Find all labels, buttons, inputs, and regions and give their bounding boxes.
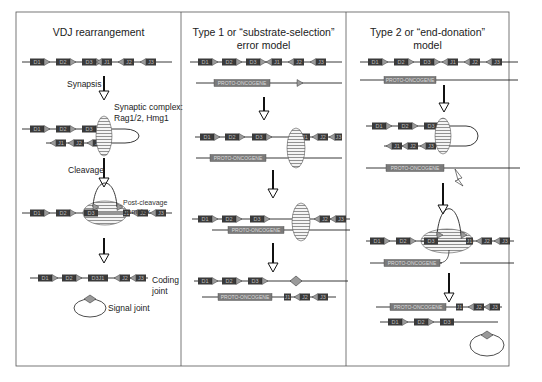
svg-text:J1: J1 [58,140,64,146]
gene-segment-J1: J1 [96,59,112,66]
gene-segment-J3: J3 [420,143,436,150]
svg-text:D2: D2 [417,319,424,325]
gene-segment-J2: J2 [68,140,84,147]
svg-text:PROTO-ONCOGENE: PROTO-ONCOGENE [221,294,270,300]
svg-text:J3: J3 [502,238,508,244]
gene-segment-J3: J3 [330,216,346,223]
svg-text:J3: J3 [138,275,144,281]
proto-oncogene: PROTO-ONCOGENE [390,304,446,311]
post-cleavage-label: Post-cleavage [123,199,167,207]
svg-text:D2: D2 [399,238,406,244]
gene-segment-D1: D1 [30,59,50,66]
gene-segment-J1: J1 [442,59,458,66]
svg-text:J1: J1 [450,59,456,65]
svg-text:D3J1: D3J1 [92,275,105,281]
svg-text:D2: D2 [59,210,66,216]
svg-text:J2: J2 [302,294,308,300]
process-arrow [99,238,109,263]
panel-title-type1: Type 1 or “substrate-selection” [181,26,346,39]
svg-text:D3: D3 [85,126,92,132]
gene-segment-D2: D2 [414,319,434,326]
svg-text:J1: J1 [457,304,463,310]
svg-text:D3: D3 [427,238,434,244]
svg-text:D1: D1 [201,278,208,284]
svg-text:D1: D1 [201,216,208,222]
gene-segment-J3: J3 [130,275,146,282]
synaptic-complex [287,128,305,168]
gene-segment-D2: D2 [222,216,242,223]
svg-text:PROTO-ONCOGENE: PROTO-ONCOGENE [391,165,440,171]
gene-segment-D2: D2 [222,278,242,285]
signal-joint-label: Signal joint [108,303,150,313]
gene-segment-J3: J3 [310,59,326,66]
gene-segment-D1: D1 [38,275,58,282]
coding-joint-label-2: joint [152,286,168,296]
svg-text:J3: J3 [338,216,344,222]
svg-text:D1: D1 [203,134,210,140]
gene-segment-J2: J2 [402,143,418,150]
svg-text:D3: D3 [87,210,94,216]
svg-text:D1: D1 [33,210,40,216]
post-cleavage-label-2: complex [124,208,150,216]
coding-joint-label: Coding [152,275,179,285]
svg-text:J1: J1 [394,143,400,149]
gene-segment-J2: J2 [118,59,134,66]
svg-text:D2: D2 [225,59,232,65]
svg-text:PROTO-ONCOGENE: PROTO-ONCOGENE [386,77,435,83]
rearrangement-diagram: D1D2D3J1J2J3D1D2D3J1J2J3D1D2D3J1J2J3D1D2… [0,0,542,382]
svg-text:D3: D3 [253,216,260,222]
svg-text:J2: J2 [322,216,328,222]
svg-text:J2: J2 [296,59,302,65]
gene-segment-J2: J2 [314,216,330,223]
gene-segment-D2: D2 [394,59,414,66]
gene-segment-D1: D1 [198,59,218,66]
gene-segment-J2: J2 [464,59,480,66]
svg-text:J3: J3 [318,59,324,65]
panel-title-type2: Type 2 or “end-donation” [346,26,509,39]
gene-segment-J2: J2 [288,59,304,66]
svg-text:D1: D1 [371,59,378,65]
gene-segment-D3: D3 [84,210,98,217]
gene-segment-D2: D2 [396,238,416,245]
cleavage-label: Cleavage [68,165,104,175]
gene-segment-D3: D3 [420,59,440,66]
svg-text:D2: D2 [225,216,232,222]
svg-text:J1: J1 [285,294,291,300]
svg-text:D1: D1 [41,275,48,281]
process-arrow [439,85,449,112]
svg-text:D1: D1 [391,319,398,325]
gene-segment-J2: J2 [294,294,310,301]
svg-text:J2: J2 [122,275,128,281]
diagram-stage: D1D2D3J1J2J3D1D2D3J1J2J3D1D2D3J1J2J3D1D2… [0,0,542,382]
svg-text:J3: J3 [148,59,154,65]
dna-loop [447,126,478,146]
proto-oncogene: PROTO-ONCOGENE [210,155,266,162]
gene-segment-J1: J1 [466,238,473,245]
process-arrow [444,273,454,302]
svg-text:PROTO-ONCOGENE: PROTO-ONCOGENE [388,260,437,266]
svg-text:D1: D1 [33,59,40,65]
svg-text:D3: D3 [427,123,434,129]
panel-subtitle-type1: error model [181,39,346,52]
synapsis-label: Synapsis [67,79,102,89]
gene-segment-D1: D1 [372,123,392,130]
gene-segment-D2: D2 [56,59,76,66]
gene-segment-D1: D1 [198,216,218,223]
svg-text:D1: D1 [375,123,382,129]
gene-segment-D2: D2 [62,275,82,282]
svg-text:PROTO-ONCOGENE: PROTO-ONCOGENE [214,155,263,161]
proto-oncogene: PROTO-ONCOGENE [214,80,270,87]
gene-segment-D2: D2 [398,123,418,130]
svg-text:J2: J2 [472,59,478,65]
proto-oncogene: PROTO-ONCOGENE [386,165,444,172]
synaptic-complex-label: Synaptic complex: [114,102,183,112]
svg-text:D1: D1 [373,238,380,244]
synaptic-complex [435,118,451,154]
svg-text:J3: J3 [492,304,498,310]
panel-subtitle-type2: model [346,39,509,52]
svg-text:PROTO-ONCOGENE: PROTO-ONCOGENE [232,227,281,233]
proto-oncogene: PROTO-ONCOGENE [384,77,436,84]
gene-segment-D3: D3 [246,59,266,66]
gene-segment-D3J1: D3J1 [88,275,108,282]
gene-segment-D1: D1 [30,210,50,217]
